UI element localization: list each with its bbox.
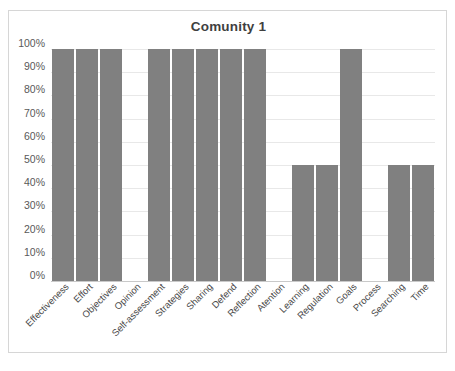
bar[interactable]	[76, 49, 98, 281]
bar-slot	[219, 49, 243, 281]
x-axis-tick-label: Effectiveness	[23, 281, 71, 329]
y-axis-tick-label: 90%	[24, 60, 45, 72]
y-axis-tick-label: 70%	[24, 107, 45, 119]
bar-slot	[315, 49, 339, 281]
bar-slot	[195, 49, 219, 281]
y-axis-tick-label: 50%	[24, 153, 45, 165]
bar[interactable]	[292, 165, 314, 281]
bar[interactable]	[100, 49, 122, 281]
y-axis-tick-label: 80%	[24, 83, 45, 95]
bar[interactable]	[388, 165, 410, 281]
y-axis-tick-label: 0%	[30, 269, 45, 281]
y-axis-tick-label: 20%	[24, 223, 45, 235]
y-axis-tick-label: 100%	[18, 37, 45, 49]
x-axis: EffectivenessEffortObjectivesOpinionSelf…	[51, 281, 435, 351]
bar-slot	[411, 49, 435, 281]
bar[interactable]	[412, 165, 434, 281]
y-axis-tick-label: 60%	[24, 130, 45, 142]
bar[interactable]	[52, 49, 74, 281]
bar[interactable]	[340, 49, 362, 281]
y-axis: 100%90%80%70%60%50%40%30%20%10%0%	[9, 43, 49, 275]
bar-slot	[171, 49, 195, 281]
x-axis-tick-label: Time	[408, 281, 430, 303]
y-axis-tick-label: 10%	[24, 246, 45, 258]
bar[interactable]	[316, 165, 338, 281]
plot-area	[51, 49, 435, 281]
y-axis-tick-label: 40%	[24, 176, 45, 188]
bar[interactable]	[196, 49, 218, 281]
bar[interactable]	[172, 49, 194, 281]
bar[interactable]	[220, 49, 242, 281]
chart-container: Comunity 1 100%90%80%70%60%50%40%30%20%1…	[8, 10, 447, 353]
bar-slot	[243, 49, 267, 281]
bar-series	[51, 49, 435, 281]
bar-slot	[291, 49, 315, 281]
bar[interactable]	[148, 49, 170, 281]
bar-slot	[75, 49, 99, 281]
bar-slot	[339, 49, 363, 281]
bar-slot	[51, 49, 75, 281]
bar-slot	[267, 49, 291, 281]
bar-slot	[387, 49, 411, 281]
plot-wrapper: 100%90%80%70%60%50%40%30%20%10%0% Effect…	[9, 11, 448, 354]
bar-slot	[363, 49, 387, 281]
y-axis-tick-label: 30%	[24, 199, 45, 211]
bar-slot	[123, 49, 147, 281]
bar-slot	[99, 49, 123, 281]
bar-slot	[147, 49, 171, 281]
bar[interactable]	[244, 49, 266, 281]
